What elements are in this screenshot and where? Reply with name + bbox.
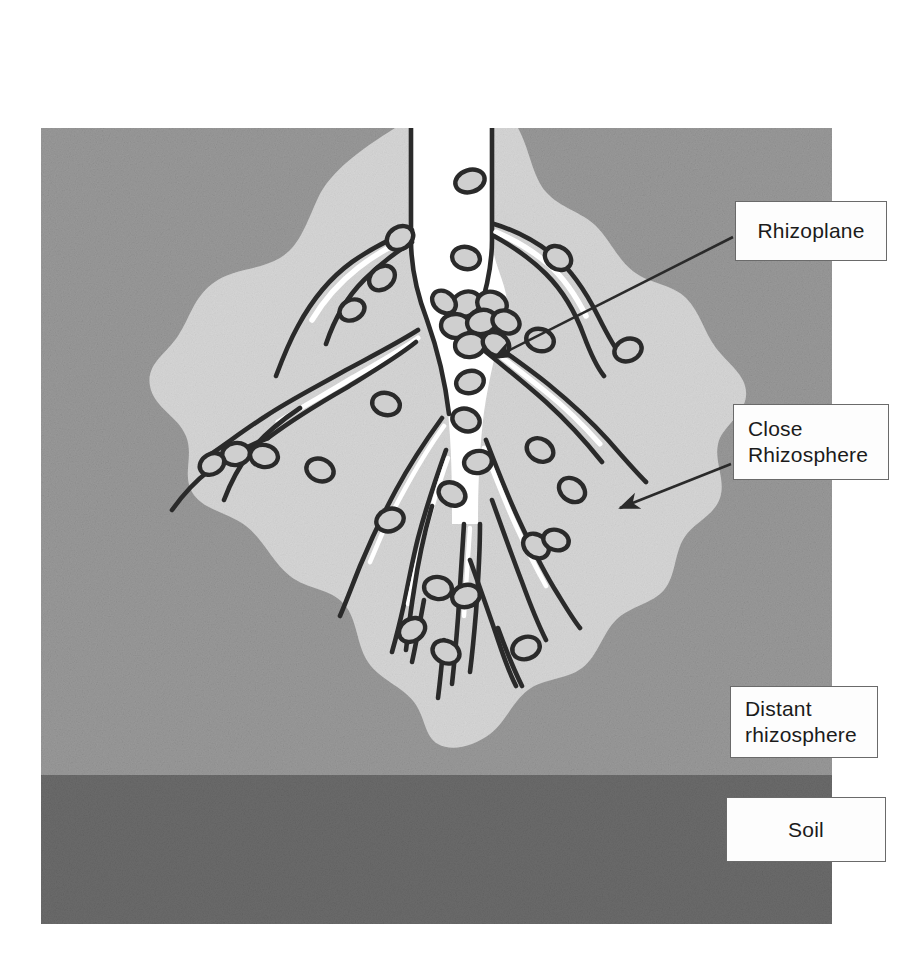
label-box-close-rhizosphere: Close Rhizosphere	[733, 404, 889, 480]
label-soil-line-1: Soil	[788, 817, 824, 843]
label-box-distant-rhizosphere: Distant rhizosphere	[730, 686, 878, 758]
label-box-soil: Soil	[726, 797, 886, 862]
zone-soil	[41, 775, 832, 924]
label-close-rhizosphere-line-2: Rhizosphere	[748, 442, 868, 468]
bacterium	[423, 575, 454, 601]
label-box-rhizoplane: Rhizoplane	[735, 201, 887, 261]
figure-canvas: Rhizoplane Close Rhizosphere Distant rhi…	[0, 0, 900, 974]
label-distant-rhizosphere-line-1: Distant	[745, 696, 812, 722]
label-rhizoplane-line-1: Rhizoplane	[757, 218, 864, 244]
label-distant-rhizosphere-line-2: rhizosphere	[745, 722, 857, 748]
label-close-rhizosphere-line-1: Close	[748, 416, 803, 442]
